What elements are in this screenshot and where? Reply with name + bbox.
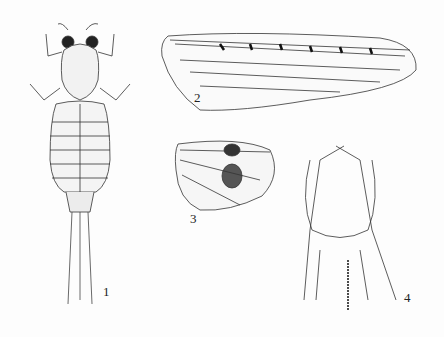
figure-label-3: 3 <box>190 211 197 227</box>
figure-3-hindwing <box>175 141 274 210</box>
figure-label-2: 2 <box>194 90 201 106</box>
figure-1-nymph <box>30 24 130 304</box>
figure-label-4: 4 <box>404 290 411 306</box>
illustration-plate: 1 2 3 4 <box>0 0 444 337</box>
figure-4-genitalia <box>304 146 396 310</box>
plate-drawing <box>0 0 444 337</box>
figure-label-1: 1 <box>103 284 110 300</box>
